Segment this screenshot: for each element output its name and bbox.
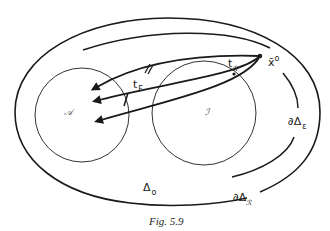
- set-a-text: 𝒜: [64, 107, 73, 117]
- boundary-eps-sub: ε: [302, 122, 306, 131]
- start-point-dot: [258, 54, 262, 58]
- point-x0-sup: o: [275, 54, 280, 63]
- point-x0-base: x̄: [268, 56, 275, 69]
- t-r-sub: ℛ: [232, 65, 238, 73]
- outer-boundary-curve: [15, 18, 320, 205]
- inner-boundary-top-arc: [83, 33, 270, 50]
- point-x0-label: x̄o: [268, 57, 279, 68]
- delta-0-sub: o: [152, 188, 157, 197]
- boundary-eps-base: ∂Δ: [288, 115, 301, 128]
- set-a-label: 𝒜: [64, 108, 73, 117]
- t-f-label: tF: [133, 79, 143, 90]
- figure-caption: Fig. 5.9: [149, 216, 184, 227]
- inner-boundary-right-arc-lower: [232, 137, 294, 177]
- t-r-label: tℛ: [228, 58, 238, 69]
- boundary-r-base: ∂Δ: [233, 191, 246, 204]
- boundary-eps-label: ∂Δε: [288, 116, 307, 127]
- set-a-circle: [35, 68, 129, 162]
- delta-0-base: Δ: [143, 181, 151, 194]
- delta-0-label: Δo: [143, 182, 156, 193]
- boundary-r-sub: ℛ: [246, 199, 252, 207]
- inner-boundary-right-arc-upper: [283, 73, 298, 108]
- diagram-canvas: [0, 0, 330, 231]
- t-f-base: t: [133, 78, 137, 91]
- boundary-r-label: ∂Δℛ: [233, 192, 252, 203]
- set-i-text: ℐ: [205, 107, 209, 117]
- set-i-label: ℐ: [205, 108, 209, 117]
- t-f-sub: F: [138, 85, 143, 94]
